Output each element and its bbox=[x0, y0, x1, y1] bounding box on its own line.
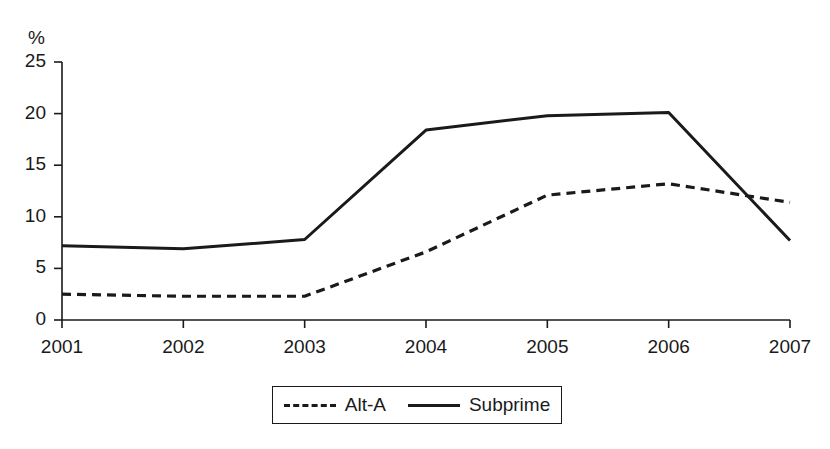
y-axis-unit-label: % bbox=[28, 27, 45, 49]
legend-label-alt-a: Alt-A bbox=[345, 394, 386, 416]
dashed-line-swatch-icon bbox=[284, 404, 336, 407]
legend-label-subprime: Subprime bbox=[469, 394, 550, 416]
y-axis-tick-label: 10 bbox=[0, 205, 46, 227]
x-axis-tick-label: 2004 bbox=[386, 336, 466, 358]
series-line-alt-a bbox=[62, 184, 790, 296]
y-axis-tick-label: 15 bbox=[0, 153, 46, 175]
plot-area bbox=[0, 0, 830, 449]
x-axis-ticks bbox=[62, 320, 790, 328]
series-line-subprime bbox=[62, 113, 790, 249]
x-axis-tick-label: 2005 bbox=[507, 336, 587, 358]
y-axis-ticks bbox=[54, 62, 62, 320]
y-axis-tick-label: 20 bbox=[0, 102, 46, 124]
x-axis-tick-label: 2002 bbox=[143, 336, 223, 358]
axes bbox=[54, 62, 790, 328]
x-axis-tick-label: 2007 bbox=[750, 336, 830, 358]
chart-figure: % 0510152025 200120022003200420052006200… bbox=[0, 0, 830, 449]
data-series-group bbox=[62, 113, 790, 297]
legend-entry-alt-a: Alt-A bbox=[284, 394, 386, 416]
chart-legend: Alt-A Subprime bbox=[272, 386, 562, 424]
legend-entry-subprime: Subprime bbox=[408, 394, 550, 416]
x-axis-tick-label: 2003 bbox=[265, 336, 345, 358]
y-axis-tick-label: 5 bbox=[0, 256, 46, 278]
x-axis-tick-label: 2006 bbox=[629, 336, 709, 358]
y-axis-tick-label: 0 bbox=[0, 308, 46, 330]
y-axis-tick-label: 25 bbox=[0, 50, 46, 72]
x-axis-tick-label: 2001 bbox=[22, 336, 102, 358]
solid-line-swatch-icon bbox=[408, 404, 460, 407]
